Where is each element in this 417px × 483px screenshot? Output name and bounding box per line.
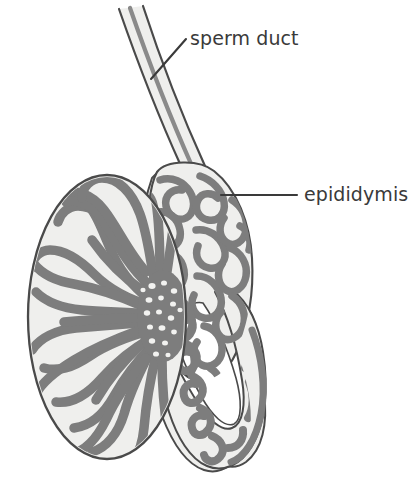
mediastinum-testis — [137, 270, 189, 362]
testis-anatomy-diagram: sperm duct epididymis — [0, 0, 417, 483]
epididymis-label: epididymis — [304, 183, 408, 205]
sperm-duct-label: sperm duct — [190, 27, 299, 49]
